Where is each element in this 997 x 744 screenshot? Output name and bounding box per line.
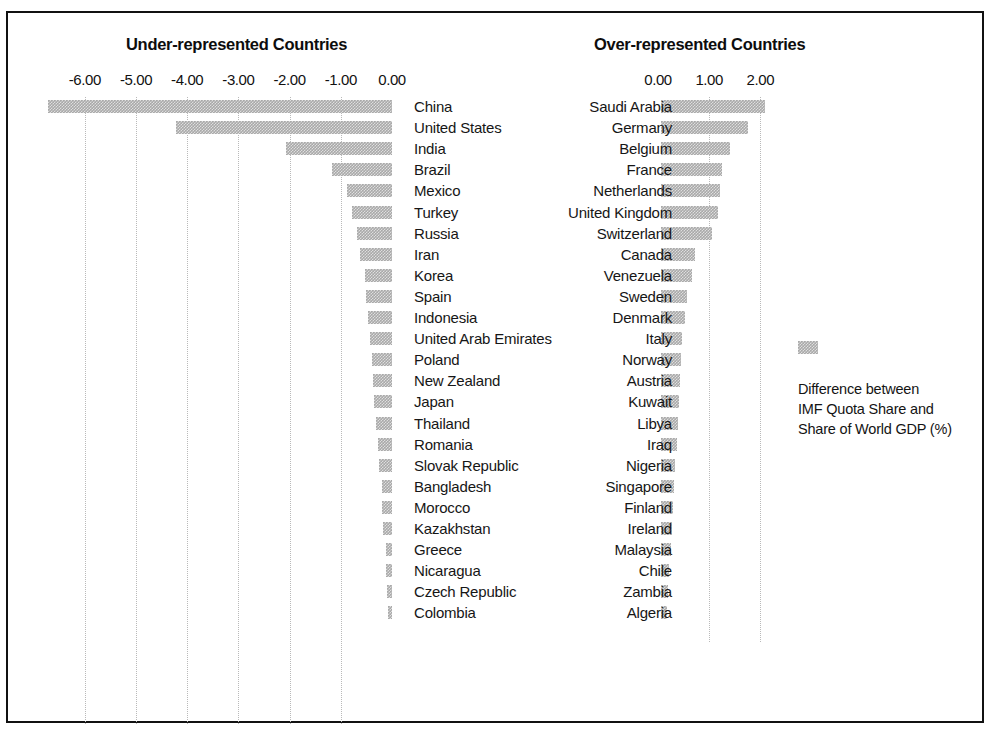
bar-row: China bbox=[8, 97, 408, 118]
category-label: Czech Republic bbox=[414, 582, 516, 601]
x-axis-tick-label: 2.00 bbox=[747, 71, 775, 88]
bar bbox=[286, 142, 392, 155]
bar-row: Venezuela bbox=[528, 266, 818, 287]
bar bbox=[376, 417, 392, 430]
bar-row: Turkey bbox=[8, 203, 408, 224]
bar-row: Denmark bbox=[528, 308, 818, 329]
category-label: Malaysia bbox=[614, 540, 672, 559]
bar bbox=[352, 206, 392, 219]
bar bbox=[386, 564, 392, 577]
category-label: Greece bbox=[414, 540, 462, 559]
bar-row: Greece bbox=[8, 540, 408, 561]
under-represented-panel-title: Under-represented Countries bbox=[126, 35, 347, 54]
bar-row: Germany bbox=[528, 118, 818, 139]
bar bbox=[387, 585, 392, 598]
bar-row: Nigeria bbox=[528, 456, 818, 477]
bar-row: Spain bbox=[8, 287, 408, 308]
bar-row: Korea bbox=[8, 266, 408, 287]
bar bbox=[370, 332, 392, 345]
bar-row: Mexico bbox=[8, 181, 408, 202]
bar bbox=[372, 353, 392, 366]
bar bbox=[357, 227, 392, 240]
bar bbox=[368, 311, 392, 324]
bar bbox=[48, 100, 392, 113]
bar bbox=[379, 459, 392, 472]
bar-row: Kazakhstan bbox=[8, 519, 408, 540]
bar-row: Malaysia bbox=[528, 540, 818, 561]
category-label: Zambia bbox=[623, 582, 672, 601]
legend-caption-line-1: Difference between bbox=[798, 379, 983, 399]
bar-color-swatch-icon bbox=[798, 341, 818, 354]
bar-row: Slovak Republic bbox=[8, 456, 408, 477]
category-label: Singapore bbox=[605, 477, 672, 496]
category-label: Spain bbox=[414, 287, 451, 306]
bar bbox=[661, 121, 748, 134]
bar-row: Zambia bbox=[528, 582, 818, 603]
category-label: Iraq bbox=[647, 435, 672, 454]
bar-row: United Arab Emirates bbox=[8, 329, 408, 350]
bar-row: Switzerland bbox=[528, 224, 818, 245]
bar-row: Russia bbox=[8, 224, 408, 245]
bar-row: Japan bbox=[8, 392, 408, 413]
category-label: Iran bbox=[414, 245, 439, 264]
bar-row: Norway bbox=[528, 350, 818, 371]
category-label: Thailand bbox=[414, 414, 470, 433]
bar-row: Canada bbox=[528, 245, 818, 266]
bar bbox=[382, 501, 392, 514]
legend-caption-line-2: IMF Quota Share and bbox=[798, 399, 983, 419]
bar-row: Saudi Arabia bbox=[528, 97, 818, 118]
category-label: United Kingdom bbox=[568, 203, 672, 222]
over-represented-plot-area: Saudi ArabiaGermanyBelgiumFranceNetherla… bbox=[528, 97, 818, 727]
category-label: Belgium bbox=[619, 139, 672, 158]
category-label: Morocco bbox=[414, 498, 470, 517]
category-label: India bbox=[414, 139, 446, 158]
bar-row: Morocco bbox=[8, 498, 408, 519]
bar bbox=[378, 438, 392, 451]
bar bbox=[374, 395, 392, 408]
bar-row: India bbox=[8, 139, 408, 160]
bar-row: Finland bbox=[528, 498, 818, 519]
category-label: China bbox=[414, 97, 452, 116]
category-label: United States bbox=[414, 118, 501, 137]
category-label: Saudi Arabia bbox=[589, 97, 672, 116]
bar-row: Czech Republic bbox=[8, 582, 408, 603]
category-label: Canada bbox=[621, 245, 672, 264]
x-axis-tick-label: 1.00 bbox=[695, 71, 723, 88]
category-label: Finland bbox=[624, 498, 672, 517]
category-label: Japan bbox=[414, 392, 454, 411]
category-label: Libya bbox=[637, 414, 672, 433]
category-label: Kuwait bbox=[628, 392, 672, 411]
chart-frame: Under-represented Countries Over-represe… bbox=[6, 11, 984, 723]
bar-row: Netherlands bbox=[528, 181, 818, 202]
bar bbox=[366, 290, 392, 303]
category-label: Nicaragua bbox=[414, 561, 481, 580]
bar-row: Poland bbox=[8, 350, 408, 371]
legend-caption-line-3: Share of World GDP (%) bbox=[798, 419, 983, 439]
under-represented-plot-area: ChinaUnited StatesIndiaBrazilMexicoTurke… bbox=[8, 97, 408, 727]
category-label: Slovak Republic bbox=[414, 456, 519, 475]
category-label: Poland bbox=[414, 350, 460, 369]
bar-row: New Zealand bbox=[8, 371, 408, 392]
category-label: Kazakhstan bbox=[414, 519, 490, 538]
bar-row: Algeria bbox=[528, 603, 818, 624]
bar-row: Nicaragua bbox=[8, 561, 408, 582]
category-label: Venezuela bbox=[604, 266, 672, 285]
x-axis-tick-label: 0.00 bbox=[644, 71, 672, 88]
category-label: Switzerland bbox=[597, 224, 672, 243]
category-label: Turkey bbox=[414, 203, 458, 222]
category-label: Bangladesh bbox=[414, 477, 491, 496]
category-label: Norway bbox=[622, 350, 672, 369]
category-label: New Zealand bbox=[414, 371, 500, 390]
bar-row: Thailand bbox=[8, 414, 408, 435]
category-label: France bbox=[627, 160, 673, 179]
bar-row: Sweden bbox=[528, 287, 818, 308]
bar-row: Iraq bbox=[528, 435, 818, 456]
bar-row: Indonesia bbox=[8, 308, 408, 329]
bar-row: Kuwait bbox=[528, 392, 818, 413]
bar-row: Belgium bbox=[528, 139, 818, 160]
category-label: Ireland bbox=[628, 519, 672, 538]
category-label: Mexico bbox=[414, 181, 460, 200]
bar-row: France bbox=[528, 160, 818, 181]
category-label: Colombia bbox=[414, 603, 476, 622]
category-label: Algeria bbox=[627, 603, 672, 622]
